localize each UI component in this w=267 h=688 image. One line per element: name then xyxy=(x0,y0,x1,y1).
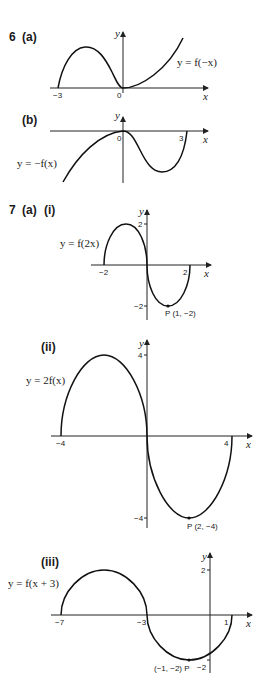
point-p-label: (−1, −2) P xyxy=(154,664,190,673)
x-tick-label: 2 xyxy=(183,268,188,277)
equation-label: y = 2f(x) xyxy=(26,374,66,387)
y-tick-label: −4 xyxy=(134,514,144,523)
x-axis-label: x xyxy=(245,617,251,629)
x-tick-label: 1 xyxy=(224,618,229,627)
x-axis-label: x xyxy=(245,438,251,450)
y-tick-label: 2 xyxy=(138,220,143,229)
point-p-label: P (1, −2) xyxy=(165,309,196,318)
graph-7ai: y x −2 2 2 −2 P (1, −2) y = f(2x) xyxy=(60,205,211,320)
point-p-label: P (2, −4) xyxy=(187,522,218,531)
x-tick-label: −4 xyxy=(56,439,66,448)
point-p xyxy=(187,658,190,661)
y-axis-label: y xyxy=(201,550,207,562)
x-tick-label: −7 xyxy=(55,618,65,627)
curve-neg-f-x xyxy=(63,131,187,182)
x-tick-label: −3 xyxy=(137,618,147,627)
equation-label: y = f(2x) xyxy=(60,237,100,250)
equation-label: y = −f(x) xyxy=(17,157,57,170)
y-tick-label: 2 xyxy=(201,566,206,575)
x-tick-label: 4 xyxy=(224,439,229,448)
x-tick-label: 3 xyxy=(179,134,184,143)
point-p xyxy=(187,516,190,519)
x-axis-label: x xyxy=(202,90,208,102)
y-axis-label: y xyxy=(114,27,120,39)
y-axis-label: y xyxy=(138,205,144,217)
graph-6b: y x 0 3 y = −f(x) xyxy=(17,109,208,183)
x-axis-label: x xyxy=(203,267,209,279)
point-p xyxy=(166,304,169,307)
graph-7aiii: y x −7 −3 1 2 −2 (−1, −2) P y = f(x + 3) xyxy=(8,550,252,673)
curve-f-neg-x xyxy=(58,38,183,88)
x-axis-label: x xyxy=(202,133,208,145)
y-tick-label: 4 xyxy=(138,351,143,360)
y-tick-label: −2 xyxy=(134,302,144,311)
graphs-canvas: y x −3 0 y = f(−x) y x 0 3 y = −f(x) y x… xyxy=(0,0,267,688)
graph-6a: y x −3 0 y = f(−x) xyxy=(50,27,217,102)
y-axis-label: y xyxy=(114,109,120,121)
x-tick-label: −2 xyxy=(99,268,109,277)
y-axis-label: y xyxy=(138,337,144,349)
x-tick-label: 0 xyxy=(117,134,122,143)
x-tick-label: 0 xyxy=(117,91,122,100)
equation-label: y = f(−x) xyxy=(177,56,217,69)
x-tick-label: −3 xyxy=(53,91,63,100)
graph-7aii: y x −4 4 4 −4 P (2, −4) y = 2f(x) xyxy=(26,337,252,531)
equation-label: y = f(x + 3) xyxy=(8,577,59,590)
y-tick-label: −2 xyxy=(197,663,207,672)
